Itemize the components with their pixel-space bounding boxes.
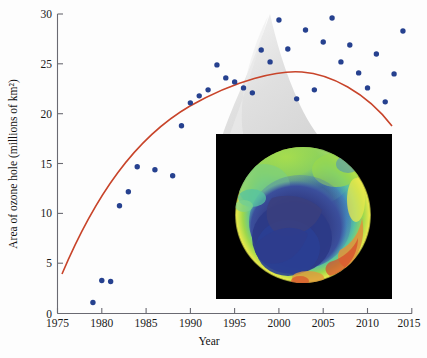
x-tick-labels: 1975 1980 1985 1990 1995 2000 2005 2010 … — [46, 317, 421, 329]
x-axis-title: Year — [198, 335, 219, 347]
scatter-point — [197, 93, 202, 98]
scatter-point — [179, 123, 184, 128]
x-axis-ticks — [58, 308, 412, 314]
scatter-point — [285, 46, 290, 51]
scatter-point — [135, 164, 140, 169]
scatter-point — [205, 87, 210, 92]
x-tick-label: 1985 — [135, 317, 158, 329]
x-tick-label: 1980 — [90, 317, 113, 329]
scatter-point — [250, 90, 255, 95]
x-tick-label: 1975 — [46, 317, 69, 329]
scatter-point — [347, 42, 352, 47]
scatter-point — [374, 51, 379, 56]
scatter-point — [338, 59, 343, 64]
y-tick-label: 15 — [41, 158, 53, 170]
x-tick-label: 1995 — [223, 317, 246, 329]
y-tick-label: 5 — [46, 257, 52, 269]
scatter-point — [321, 39, 326, 44]
x-tick-label: 1990 — [179, 317, 202, 329]
chart-canvas: 0 5 10 15 20 25 30 1975 1980 1985 1990 1… — [0, 0, 427, 358]
scatter-point — [391, 71, 396, 76]
x-tick-label: 2010 — [356, 317, 379, 329]
scatter-point — [117, 203, 122, 208]
scatter-point — [170, 173, 175, 178]
scatter-point — [188, 100, 193, 105]
scatter-point — [329, 15, 334, 20]
scatter-point — [356, 70, 361, 75]
scatter-point — [303, 27, 308, 32]
x-tick-label: 2005 — [312, 317, 335, 329]
y-tick-label: 20 — [41, 108, 53, 120]
scatter-point — [108, 279, 113, 284]
scatter-point — [259, 47, 264, 52]
scatter-point — [126, 189, 131, 194]
scatter-point — [294, 96, 299, 101]
scatter-point — [400, 28, 405, 33]
scatter-point — [312, 87, 317, 92]
y-tick-label: 10 — [41, 207, 53, 219]
x-tick-label: 2000 — [267, 317, 290, 329]
x-tick-label: 2015 — [398, 317, 421, 329]
y-tick-labels: 0 5 10 15 20 25 30 — [41, 8, 53, 320]
ozone-hole-satellite-image — [216, 134, 392, 299]
scatter-point — [152, 167, 157, 172]
y-axis-ticks — [58, 14, 64, 263]
y-axis-title: Area of ozone hole (millions of km²) — [7, 79, 20, 249]
scatter-point — [241, 85, 246, 90]
scatter-point — [365, 85, 370, 90]
scatter-point — [267, 59, 272, 64]
scatter-point — [90, 300, 95, 305]
y-tick-label: 25 — [41, 58, 53, 70]
scatter-point — [99, 278, 104, 283]
scatter-point — [214, 62, 219, 67]
scatter-point — [383, 99, 388, 104]
scatter-point — [276, 17, 281, 22]
y-tick-label: 30 — [41, 8, 53, 20]
scatter-point — [232, 79, 237, 84]
ozone-hole-chart-figure: 0 5 10 15 20 25 30 1975 1980 1985 1990 1… — [0, 0, 427, 358]
scatter-point — [223, 75, 228, 80]
